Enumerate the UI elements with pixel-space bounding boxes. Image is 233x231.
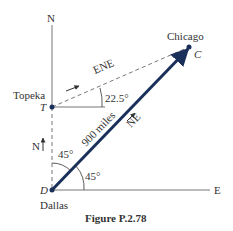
angle-east-label: 45°: [85, 170, 100, 182]
north-small-label: N: [32, 140, 40, 152]
dallas-point: [50, 188, 55, 193]
angle-arc-east: [76, 166, 84, 190]
figure-caption: Figure P.2.78: [85, 212, 147, 224]
chicago-name: Chicago: [167, 30, 204, 42]
ne-vector: [52, 49, 188, 190]
vector-diagram: N E ENE 22.5° 900 miles NE N 45° 45° Top…: [0, 0, 233, 231]
angle-arc-22: [100, 88, 102, 107]
topeka-name: Topeka: [13, 89, 45, 101]
chicago-letter: C: [194, 48, 202, 60]
topeka-point: [50, 105, 55, 110]
ene-arrow-icon: [66, 86, 79, 91]
angle-arc-north: [52, 163, 71, 171]
dallas-name: Dallas: [40, 199, 68, 211]
angle-22-label: 22.5°: [105, 92, 129, 104]
angle-north-label: 45°: [58, 148, 73, 160]
north-label: N: [47, 12, 55, 24]
ene-label: ENE: [91, 56, 116, 76]
topeka-letter: T: [40, 101, 47, 113]
chicago-point: [187, 45, 192, 50]
dallas-letter: D: [39, 184, 48, 196]
east-label: E: [214, 184, 221, 196]
